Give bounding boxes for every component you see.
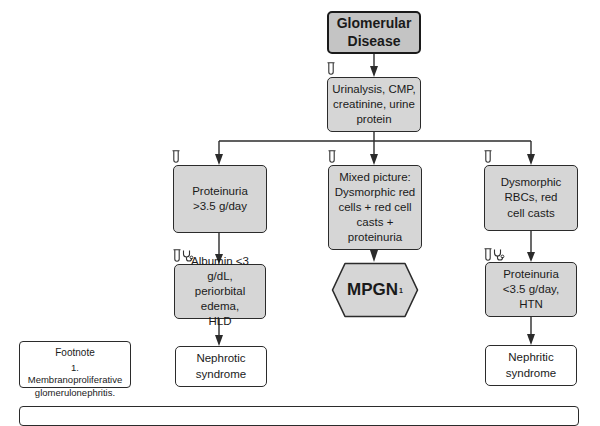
finding-node-mixed-picture: Mixed picture: Dysmorphic red cells + re…: [328, 165, 422, 250]
finding-right-line1: Dysmorphic: [501, 175, 562, 190]
criteria-right-line1: Proteinuria: [503, 267, 559, 282]
exam-icons-right: [484, 248, 508, 261]
workup-line1: Urinalysis, CMP,: [332, 82, 416, 97]
criteria-node-nephritic: Proteinuria <3.5 g/day, HTN: [485, 262, 577, 317]
workup-line3: protein: [356, 112, 391, 127]
test-tube-icon: [484, 248, 492, 261]
footnote-box: Footnote 1. Membranoproliferative glomer…: [19, 341, 131, 388]
outcome-right-line2: syndrome: [506, 366, 557, 381]
footnote-title: Footnote: [23, 346, 127, 360]
criteria-node-nephrotic: Albumin <3 g/dL, periorbital edema, HLD: [174, 264, 266, 319]
test-tube-icon: [484, 150, 492, 163]
criteria-left-line2: periorbital edema,: [179, 284, 261, 314]
test-tube-icon: [328, 150, 336, 163]
workup-line2: creatinine, urine: [333, 97, 415, 112]
criteria-left-line1: Albumin <3 g/dL,: [179, 254, 261, 284]
stethoscope-icon: [493, 249, 505, 261]
finding-right-line3: cell casts: [507, 206, 554, 221]
finding-left-line1: Proteinuria: [192, 184, 248, 199]
outcome-left-line1: Nephrotic: [196, 351, 245, 366]
footnote-ref: 1: [399, 287, 403, 294]
footnote-line2: glomerulonephritis.: [23, 387, 127, 400]
finding-mid-line2: Dysmorphic red: [335, 185, 416, 200]
finding-mid-line3: cells + red cell: [338, 200, 411, 215]
mpgn-label: MPGN1: [331, 262, 419, 318]
outcome-node-mpgn: MPGN1: [331, 262, 419, 318]
start-node-glomerular-disease: Glomerular Disease: [327, 11, 421, 54]
outcome-right-line1: Nephritic: [508, 350, 553, 365]
finding-node-proteinuria-high: Proteinuria >3.5 g/day: [173, 165, 267, 233]
mpgn-text: MPGN: [347, 280, 398, 300]
outcome-node-nephritic-syndrome: Nephritic syndrome: [485, 345, 577, 386]
start-node-line2: Disease: [348, 33, 401, 51]
finding-mid-line1: Mixed picture:: [339, 170, 411, 185]
test-tube-icon: [327, 62, 335, 75]
criteria-right-line2: <3.5 g/day,: [503, 282, 559, 297]
criteria-right-line3: HTN: [519, 297, 543, 312]
start-node-line1: Glomerular: [337, 15, 412, 33]
finding-left-line2: >3.5 g/day: [193, 199, 247, 214]
bottom-panel: [19, 406, 579, 426]
finding-right-line2: RBCs, red: [504, 190, 557, 205]
workup-node: Urinalysis, CMP, creatinine, urine prote…: [327, 77, 421, 132]
outcome-left-line2: syndrome: [196, 367, 247, 382]
footnote-line1: 1. Membranoproliferative: [23, 362, 127, 388]
outcome-node-nephrotic-syndrome: Nephrotic syndrome: [175, 346, 267, 387]
test-tube-icon: [172, 150, 180, 163]
finding-mid-line4: casts + proteinuria: [333, 215, 417, 245]
finding-node-dysmorphic-rbcs: Dysmorphic RBCs, red cell casts: [484, 165, 578, 231]
criteria-left-line3: HLD: [208, 314, 231, 329]
